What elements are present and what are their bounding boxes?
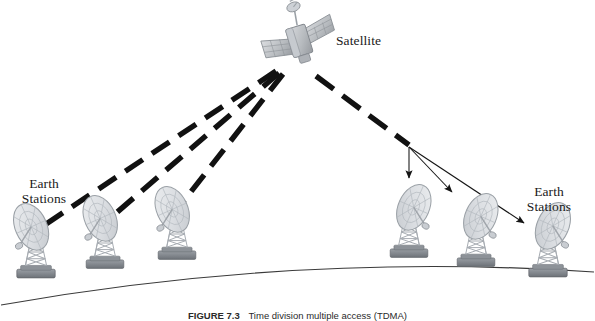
earth-station-left-3 xyxy=(142,181,196,259)
earth-station-right-1 xyxy=(390,179,444,257)
earth-station-left-1 xyxy=(1,198,56,278)
downlink-beam-group xyxy=(316,76,409,145)
earth-stations-label-right: Earth Stations xyxy=(511,184,587,214)
figure-container: Satellite Earth Stations Earth Stations … xyxy=(0,0,595,321)
figure-caption: FIGURE 7.3 Time division multiple access… xyxy=(0,310,595,321)
downlink-beam xyxy=(316,76,409,145)
uplink-beam-1 xyxy=(31,71,276,234)
figure-caption-number: FIGURE 7.3 xyxy=(188,310,240,321)
tdma-diagram xyxy=(0,0,595,321)
satellite-label: Satellite xyxy=(336,33,381,48)
uplink-beam-3 xyxy=(172,74,283,216)
earth-stations-label-left: Earth Stations xyxy=(8,176,80,206)
figure-caption-text: Time division multiple access (TDMA) xyxy=(248,310,407,321)
uplink-beam-2 xyxy=(101,73,279,226)
earth-curvature-arc xyxy=(1,267,594,305)
satellite-icon xyxy=(261,0,336,65)
earth-station-right-2 xyxy=(457,188,511,266)
